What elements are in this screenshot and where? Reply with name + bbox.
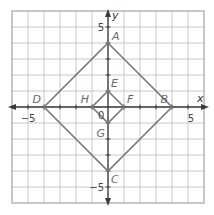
x-tick-label-5: 5 [188,113,194,124]
point-label-g: G [96,127,105,140]
coordinate-plane: yx0−555−5ABCDEFGH [0,0,214,215]
point-label-c: C [111,173,119,186]
origin-label: 0 [98,110,104,121]
labels: yx0−555−5ABCDEFGH [21,9,204,193]
point-label-a: A [111,30,120,43]
y-axis-down-arrow-icon [105,198,111,206]
y-tick-label-neg5: −5 [89,182,104,193]
y-axis-label: y [111,9,119,22]
axes [8,9,209,206]
point-label-e: E [111,77,118,90]
y-tick-label-5: 5 [98,22,104,33]
x-axis-label: x [196,92,204,105]
point-label-d: D [33,93,41,106]
point-label-f: F [127,93,134,106]
point-label-b: B [160,93,168,106]
x-tick-label-neg5: −5 [21,113,36,124]
point-label-h: H [81,93,89,106]
y-axis-up-arrow-icon [105,9,111,17]
